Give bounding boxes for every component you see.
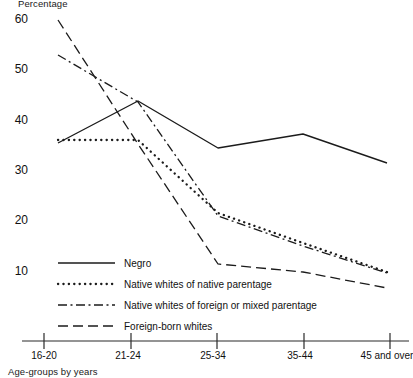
series-lines xyxy=(58,20,387,288)
series-line-negro xyxy=(58,101,387,163)
series-line-native-whites-native-parentage xyxy=(58,140,387,272)
series-line-native-whites-foreign-mixed-parentage xyxy=(58,55,387,273)
legend-swatches xyxy=(58,263,115,326)
series-line-foreign-born-whites xyxy=(58,20,387,288)
